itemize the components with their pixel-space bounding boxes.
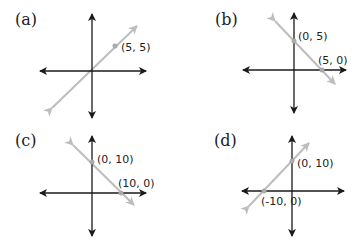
point-c-1	[90, 160, 95, 165]
point-label-d-2: (-10, 0)	[261, 195, 302, 208]
panel-c-label: (c)	[15, 131, 36, 150]
panel-b-label: (b)	[215, 10, 238, 29]
point-label-b-2: (5, 0)	[318, 54, 348, 67]
point-label-d-1: (0, 10)	[297, 157, 334, 170]
panel-a-graph	[40, 14, 146, 118]
point-label-a-1: (5, 5)	[121, 41, 151, 54]
point-d-1	[290, 159, 295, 164]
line-a	[52, 26, 137, 108]
point-b-2	[320, 68, 325, 73]
point-label-b-1: (0, 5)	[298, 30, 328, 43]
panel-d-graph	[242, 136, 344, 236]
point-label-c-1: (0, 10)	[97, 153, 134, 166]
point-d-2	[262, 189, 267, 194]
point-a-1	[113, 44, 118, 49]
point-b-1	[292, 39, 297, 44]
point-c-2	[119, 191, 124, 196]
panel-d-label: (d)	[214, 131, 237, 150]
point-label-c-2: (10, 0)	[118, 177, 155, 190]
panel-a-label: (a)	[15, 10, 37, 29]
